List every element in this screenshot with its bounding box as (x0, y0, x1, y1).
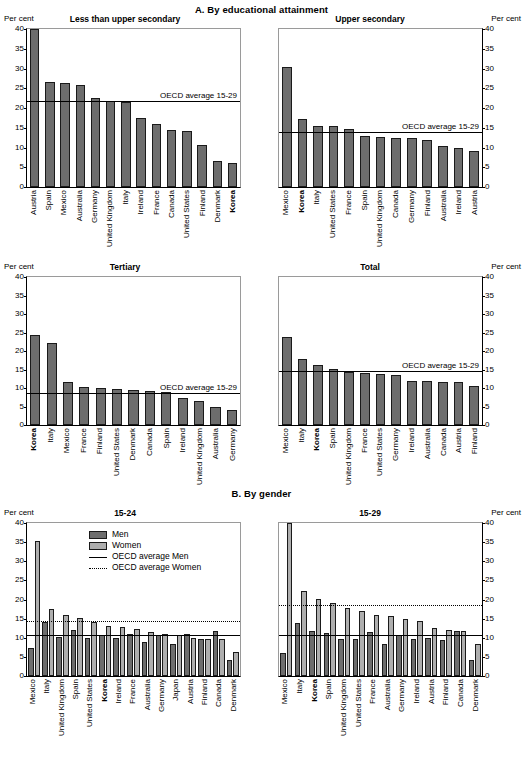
bar-men[interactable] (170, 644, 176, 676)
bar[interactable] (213, 161, 222, 187)
bar[interactable] (391, 138, 401, 187)
bar-men[interactable] (184, 634, 190, 676)
bar[interactable] (128, 390, 138, 425)
bar-men[interactable] (425, 638, 431, 676)
bar-men[interactable] (367, 632, 373, 676)
bar-men[interactable] (213, 631, 219, 676)
bar-women[interactable] (461, 631, 467, 676)
bar[interactable] (298, 359, 308, 425)
bar[interactable] (469, 386, 479, 425)
bar[interactable] (329, 126, 339, 187)
bar[interactable] (228, 163, 237, 187)
bar[interactable] (469, 151, 479, 187)
bar-men[interactable] (440, 640, 446, 676)
bar[interactable] (282, 67, 292, 187)
bar[interactable] (136, 118, 145, 187)
bar-men[interactable] (411, 639, 417, 676)
bar[interactable] (45, 82, 54, 187)
bar-women[interactable] (91, 622, 97, 676)
bar-men[interactable] (142, 642, 148, 676)
bar-men[interactable] (42, 622, 48, 676)
bar-women[interactable] (77, 618, 83, 676)
bar[interactable] (91, 98, 100, 187)
bar[interactable] (344, 372, 354, 425)
bar[interactable] (313, 126, 323, 187)
bar[interactable] (63, 382, 73, 425)
bar[interactable] (407, 138, 417, 187)
bar-women[interactable] (35, 541, 41, 676)
bar-women[interactable] (403, 619, 409, 676)
bar-women[interactable] (63, 615, 69, 676)
bar-women[interactable] (475, 644, 481, 677)
bar-men[interactable] (454, 631, 460, 676)
bar-women[interactable] (134, 629, 140, 676)
bar-men[interactable] (127, 634, 133, 676)
bar-women[interactable] (301, 591, 307, 676)
bar-women[interactable] (388, 616, 394, 676)
bar[interactable] (167, 130, 176, 187)
bar-women[interactable] (359, 611, 365, 676)
bar-women[interactable] (191, 638, 197, 676)
bar[interactable] (79, 387, 89, 425)
bar[interactable] (182, 131, 191, 187)
bar-men[interactable] (382, 644, 388, 676)
bar-men[interactable] (227, 660, 233, 676)
bar[interactable] (376, 374, 386, 425)
bar-men[interactable] (71, 630, 77, 676)
bar[interactable] (407, 381, 417, 425)
bar[interactable] (106, 101, 115, 187)
bar[interactable] (194, 401, 204, 425)
bar[interactable] (344, 129, 354, 187)
bar-men[interactable] (99, 635, 105, 676)
bar-women[interactable] (205, 639, 211, 676)
bar-women[interactable] (162, 634, 168, 676)
bar-men[interactable] (396, 635, 402, 676)
bar[interactable] (313, 365, 323, 425)
bar-women[interactable] (345, 608, 351, 676)
bar-men[interactable] (85, 638, 91, 676)
bar[interactable] (197, 145, 206, 187)
bar[interactable] (161, 392, 171, 425)
bar-women[interactable] (374, 615, 380, 676)
bar-women[interactable] (316, 599, 322, 676)
bar-women[interactable] (417, 621, 423, 676)
bar-men[interactable] (295, 623, 301, 676)
bar-women[interactable] (287, 523, 293, 676)
bar[interactable] (60, 83, 69, 187)
bar-men[interactable] (156, 635, 162, 676)
bar-men[interactable] (469, 660, 475, 676)
bar-women[interactable] (233, 652, 239, 676)
bar[interactable] (454, 148, 464, 187)
bar[interactable] (422, 140, 432, 187)
bar-women[interactable] (330, 603, 336, 676)
bar[interactable] (438, 146, 448, 187)
bar[interactable] (438, 382, 448, 425)
bar-men[interactable] (353, 639, 359, 676)
bar-men[interactable] (113, 638, 119, 676)
bar[interactable] (112, 389, 122, 425)
bar-women[interactable] (177, 635, 183, 676)
bar[interactable] (329, 369, 339, 425)
bar[interactable] (152, 124, 161, 187)
bar[interactable] (30, 29, 39, 187)
bar[interactable] (454, 382, 464, 425)
bar-men[interactable] (56, 637, 62, 676)
bar-men[interactable] (28, 648, 34, 676)
bar-men[interactable] (338, 639, 344, 676)
bar-men[interactable] (309, 631, 315, 676)
bar-women[interactable] (148, 632, 154, 676)
bar[interactable] (210, 407, 220, 426)
bar[interactable] (360, 373, 370, 425)
bar[interactable] (422, 381, 432, 425)
bar[interactable] (298, 119, 308, 187)
bar[interactable] (282, 337, 292, 425)
bar-women[interactable] (219, 639, 225, 676)
bar-men[interactable] (324, 633, 330, 676)
bar[interactable] (376, 137, 386, 187)
bar[interactable] (30, 335, 40, 425)
bar[interactable] (47, 343, 57, 426)
bar-women[interactable] (106, 626, 112, 676)
bar[interactable] (178, 398, 188, 425)
bar-women[interactable] (446, 630, 452, 676)
bar[interactable] (121, 102, 130, 187)
